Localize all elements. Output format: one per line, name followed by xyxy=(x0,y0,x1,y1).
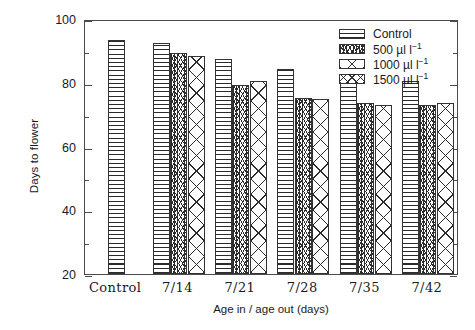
legend-swatch xyxy=(339,44,365,54)
bar xyxy=(153,43,170,274)
y-tick-major xyxy=(85,85,92,86)
y-tick-major-right xyxy=(450,276,457,277)
y-tick-minor xyxy=(85,244,89,245)
bar xyxy=(108,40,125,274)
bar xyxy=(312,99,329,274)
y-tick-label: 100 xyxy=(36,13,76,27)
bar xyxy=(402,81,419,274)
x-tick-label: Control xyxy=(89,280,141,295)
bar xyxy=(357,103,374,274)
x-axis-title: Age in / age out (days) xyxy=(84,303,458,315)
legend-item: 1500 µl l−1 xyxy=(339,71,428,86)
y-tick-major xyxy=(85,276,92,277)
y-tick-label: 60 xyxy=(36,141,76,155)
legend-item: Control xyxy=(339,26,428,41)
x-tick-label: 7/35 xyxy=(349,280,380,295)
bar xyxy=(295,98,312,274)
y-tick-major xyxy=(85,212,92,213)
bar xyxy=(232,85,249,274)
y-tick-minor-right xyxy=(453,53,457,54)
legend-label: Control xyxy=(373,28,412,40)
x-tick-label: 7/21 xyxy=(224,280,255,295)
bar xyxy=(250,81,267,274)
bar xyxy=(277,69,294,274)
legend-swatch xyxy=(339,59,365,69)
bar xyxy=(375,105,392,274)
figure-canvas: Days to flower 20406080100 Control7/147/… xyxy=(0,0,475,330)
y-tick-major xyxy=(85,149,92,150)
bar xyxy=(188,56,205,274)
y-tick-minor xyxy=(85,53,89,54)
y-tick-major xyxy=(85,21,92,22)
y-tick-minor xyxy=(85,117,89,118)
legend-label: 1500 µl l−1 xyxy=(373,72,428,86)
x-tick-label: 7/42 xyxy=(411,280,442,295)
x-tick-label: 7/14 xyxy=(162,280,193,295)
x-tick-label: 7/28 xyxy=(287,280,318,295)
y-tick-minor xyxy=(85,180,89,181)
y-tick-major-right xyxy=(450,85,457,86)
y-tick-label: 80 xyxy=(36,77,76,91)
bar xyxy=(437,103,454,274)
bar xyxy=(340,81,357,274)
legend: Control500 µl l−11000 µl l−11500 µl l−1 xyxy=(336,24,431,88)
legend-swatch xyxy=(339,29,365,39)
legend-label: 500 µl l−1 xyxy=(373,42,422,56)
legend-item: 500 µl l−1 xyxy=(339,41,428,56)
bar xyxy=(215,59,232,274)
legend-swatch xyxy=(339,74,365,84)
bar xyxy=(170,53,187,274)
bar xyxy=(419,105,436,274)
legend-item: 1000 µl l−1 xyxy=(339,56,428,71)
legend-label: 1000 µl l−1 xyxy=(373,57,428,71)
y-tick-major-right xyxy=(450,21,457,22)
y-tick-label: 20 xyxy=(36,268,76,282)
y-tick-label: 40 xyxy=(36,204,76,218)
